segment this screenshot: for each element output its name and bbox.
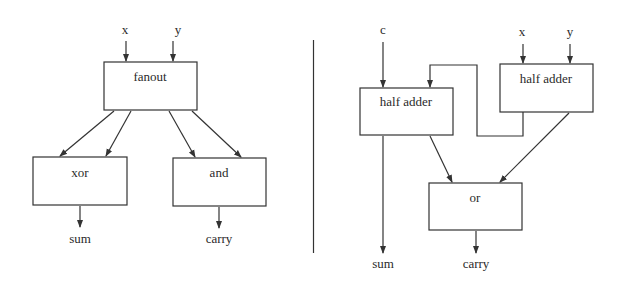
output-carry-label: carry (206, 231, 233, 246)
right-diagram-full-adder: c x y half adder half adder or sum carry (360, 22, 593, 271)
input-y-label: y (175, 22, 182, 37)
xor-label: xor (71, 165, 89, 180)
output-sum-label: sum (69, 231, 91, 246)
half-adder-2-label: half adder (520, 71, 573, 86)
or-label: or (470, 190, 482, 205)
input-x-label: x (122, 22, 129, 37)
input-x-label: x (519, 24, 526, 39)
left-diagram-half-adder: x y fanout xor and sum carry (33, 22, 266, 246)
arrow-half-adder-1-carry-to-or (430, 136, 452, 182)
input-y-label: y (567, 24, 574, 39)
output-sum-label: sum (372, 256, 394, 271)
arrow-fanout-to-and-2 (192, 111, 241, 157)
arrow-fanout-to-xor-2 (106, 111, 131, 156)
fanout-label: fanout (133, 69, 167, 84)
input-c-label: c (380, 22, 386, 37)
and-label: and (210, 165, 229, 180)
diagram-canvas: x y fanout xor and sum carry c x y half … (0, 0, 628, 287)
arrow-fanout-to-xor-1 (60, 111, 114, 156)
arrow-half-adder-2-carry-to-or (500, 113, 569, 182)
arrow-fanout-to-and-1 (169, 111, 195, 157)
output-carry-label: carry (463, 256, 490, 271)
half-adder-1-label: half adder (380, 94, 433, 109)
